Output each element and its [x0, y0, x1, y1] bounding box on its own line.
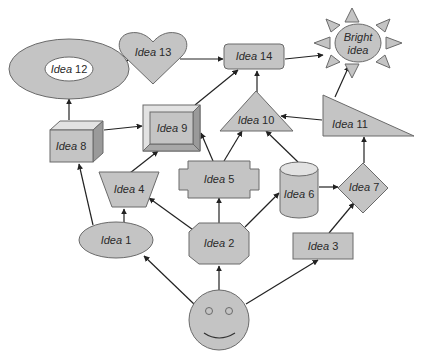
edge-idea5-idea9 [201, 133, 213, 161]
svg-text:Idea 10: Idea 10 [238, 114, 275, 126]
idea10-num: 10 [262, 114, 274, 126]
idea4-num: 4 [138, 183, 144, 195]
svg-text:Idea 8: Idea 8 [56, 140, 87, 152]
edge-start-idea3 [246, 260, 318, 304]
edge-idea11-idea10 [281, 116, 322, 120]
node-idea4[interactable]: Idea 4 [99, 172, 159, 207]
idea9-num: 9 [181, 122, 187, 134]
idea5-word: Idea [204, 173, 225, 185]
node-idea11[interactable]: Idea 11 [323, 95, 414, 136]
svg-text:Idea 4: Idea 4 [114, 183, 145, 195]
edge-idea9-idea14 [195, 70, 238, 105]
node-bright-idea[interactable]: Bright idea [314, 8, 402, 78]
node-idea13[interactable]: Idea 13 [119, 33, 187, 84]
node-idea10[interactable]: Idea 10 [220, 91, 293, 131]
node-idea6[interactable]: Idea 6 [280, 162, 318, 218]
svg-text:Idea 2: Idea 2 [204, 237, 235, 249]
edge-idea14-bright [285, 55, 323, 59]
edge-idea8-idea9 [104, 126, 142, 130]
svg-text:Idea 9: Idea 9 [157, 122, 188, 134]
idea14-num: 14 [260, 50, 272, 62]
idea13-num: 13 [159, 46, 171, 58]
svg-text:Idea 3: Idea 3 [308, 240, 339, 252]
edge-idea1-idea8 [79, 164, 93, 225]
idea6-word: Idea [284, 188, 305, 200]
svg-text:Idea 11: Idea 11 [332, 118, 368, 130]
idea1-num: 1 [125, 234, 131, 246]
idea13-word: Idea [135, 46, 156, 58]
idea2-num: 2 [228, 237, 234, 249]
idea4-word: Idea [114, 183, 135, 195]
node-idea2[interactable]: Idea 2 [189, 223, 249, 264]
idea14-word: Idea [236, 50, 257, 62]
idea12-word: Idea [51, 63, 72, 75]
idea9-word: Idea [157, 122, 178, 134]
node-idea5[interactable]: Idea 5 [179, 161, 259, 198]
bright-line1: Bright [344, 31, 374, 43]
node-idea14[interactable]: Idea 14 [224, 44, 284, 69]
edge-idea5-idea10 [224, 131, 242, 161]
edge-idea11-bright [335, 66, 349, 97]
edge-idea3-idea7 [329, 203, 354, 233]
svg-text:Idea 6: Idea 6 [284, 188, 315, 200]
node-idea3[interactable]: Idea 3 [293, 233, 353, 259]
idea6-num: 6 [308, 188, 314, 200]
node-idea12[interactable]: Idea 12 [9, 39, 129, 99]
idea8-num: 8 [80, 140, 86, 152]
idea5-num: 5 [228, 173, 234, 185]
idea7-word: Idea [349, 181, 370, 193]
edge-idea6-idea10 [266, 131, 298, 162]
node-idea1[interactable]: Idea 1 [79, 222, 153, 258]
svg-text:Idea 13: Idea 13 [135, 46, 172, 58]
edge-idea4-idea9 [130, 151, 158, 173]
svg-text:Idea 14: Idea 14 [236, 50, 273, 62]
node-start-smiley-icon[interactable] [189, 290, 249, 350]
edge-idea2-idea4 [149, 198, 196, 232]
bright-line2: idea [348, 44, 369, 56]
smiley-left-eye [206, 308, 213, 315]
edge-start-idea1 [144, 256, 195, 305]
idea8-word: Idea [56, 140, 77, 152]
idea7-num: 7 [373, 181, 379, 193]
svg-text:Idea 1: Idea 1 [101, 234, 132, 246]
idea-diagram: Idea 12 Idea 13 Idea 14 Bright idea Idea… [0, 0, 427, 361]
idea3-num: 3 [332, 240, 338, 252]
idea11-word: Idea [332, 118, 353, 130]
smiley-right-eye [226, 308, 233, 315]
idea3-word: Idea [308, 240, 329, 252]
idea2-word: Idea [204, 237, 225, 249]
idea12-num: 12 [75, 63, 87, 75]
node-idea7[interactable]: Idea 7 [338, 163, 388, 213]
idea1-word: Idea [101, 234, 122, 246]
node-idea9[interactable]: Idea 9 [143, 105, 200, 151]
svg-text:Idea 7: Idea 7 [349, 181, 380, 193]
idea11-num: 11 [357, 118, 368, 130]
svg-text:Idea 5: Idea 5 [204, 173, 235, 185]
node-idea8[interactable]: Idea 8 [50, 121, 103, 162]
svg-text:Idea 12: Idea 12 [51, 63, 88, 75]
idea10-word: Idea [238, 114, 259, 126]
